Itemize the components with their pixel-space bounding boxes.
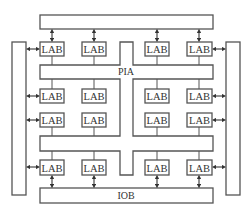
cpld-architecture-diagram: IOB PIA bbox=[0, 0, 252, 215]
svg-text:LAB: LAB bbox=[42, 44, 63, 55]
lab-r1c4: LAB bbox=[187, 42, 212, 56]
svg-text:LAB: LAB bbox=[147, 44, 168, 55]
svg-text:LAB: LAB bbox=[189, 115, 210, 126]
lab-r2c1: LAB bbox=[40, 89, 64, 103]
io-arrows-top bbox=[52, 31, 199, 40]
lab-r3c1: LAB bbox=[40, 113, 64, 127]
lab-r2c4: LAB bbox=[187, 89, 212, 103]
lab-r2c3: LAB bbox=[145, 89, 169, 103]
svg-text:LAB: LAB bbox=[147, 115, 168, 126]
svg-text:LAB: LAB bbox=[84, 91, 105, 102]
svg-text:LAB: LAB bbox=[147, 163, 168, 174]
iob-left bbox=[12, 42, 26, 195]
io-arrows-bottom bbox=[52, 177, 199, 186]
iob-bottom-label: IOB bbox=[117, 190, 135, 201]
svg-text:LAB: LAB bbox=[84, 115, 105, 126]
lab-r1c1: LAB bbox=[40, 42, 64, 56]
pia-interconnect bbox=[40, 42, 213, 175]
iob-top bbox=[40, 15, 213, 29]
lab-r4c1: LAB bbox=[40, 160, 64, 175]
lab-r3c4: LAB bbox=[187, 113, 212, 127]
svg-text:LAB: LAB bbox=[189, 163, 210, 174]
svg-text:LAB: LAB bbox=[42, 163, 63, 174]
svg-text:LAB: LAB bbox=[147, 91, 168, 102]
svg-text:LAB: LAB bbox=[84, 163, 105, 174]
svg-text:LAB: LAB bbox=[42, 115, 63, 126]
lab-r4c3: LAB bbox=[145, 160, 169, 175]
iob-right bbox=[226, 42, 240, 195]
lab-r2c2: LAB bbox=[82, 89, 106, 103]
io-arrows-left bbox=[28, 49, 38, 167]
lab-r1c3: LAB bbox=[145, 42, 169, 56]
io-arrows-right bbox=[214, 49, 224, 167]
svg-text:LAB: LAB bbox=[189, 44, 210, 55]
lab-r3c2: LAB bbox=[82, 113, 106, 127]
lab-r3c3: LAB bbox=[145, 113, 169, 127]
lab-r1c2: LAB bbox=[82, 42, 106, 56]
lab-r4c4: LAB bbox=[187, 160, 212, 175]
lab-r4c2: LAB bbox=[82, 160, 106, 175]
pia-label: PIA bbox=[118, 66, 135, 77]
svg-text:LAB: LAB bbox=[189, 91, 210, 102]
svg-text:LAB: LAB bbox=[42, 91, 63, 102]
svg-text:LAB: LAB bbox=[84, 44, 105, 55]
